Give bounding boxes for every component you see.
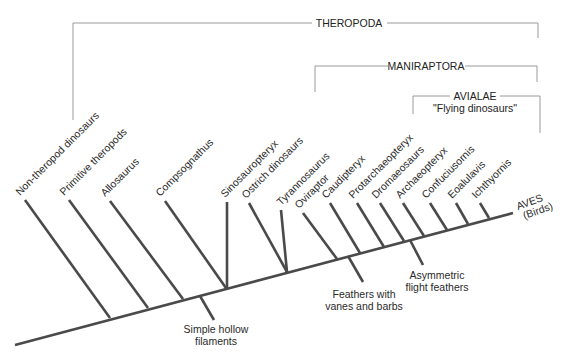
branch-primitive-theropods bbox=[69, 200, 148, 308]
cladogram: THEROPODA MANIRAPTORA AVIALAE "Flying di… bbox=[0, 0, 563, 355]
taxon-labels: Non-theropod dinosaurs Primitive theropo… bbox=[13, 109, 513, 210]
branch-eoalulavis bbox=[456, 203, 468, 224]
branch-oviraptor bbox=[303, 213, 337, 259]
trait-marker-hollow-filaments bbox=[200, 296, 214, 320]
theropoda-label: THEROPODA bbox=[316, 17, 383, 29]
svg-text:flight feathers: flight feathers bbox=[405, 281, 468, 293]
branch-protarchaeopteryx bbox=[357, 203, 384, 247]
taxon-label: Compsognathus bbox=[153, 136, 216, 199]
trait-label-asymmetric-feathers: Asymmetric flight feathers bbox=[405, 269, 468, 293]
branch-ichthyornis bbox=[480, 203, 489, 218]
trait-marker-vaned-feathers bbox=[348, 256, 363, 282]
svg-text:Simple hollow: Simple hollow bbox=[184, 323, 249, 335]
svg-text:Asymmetric: Asymmetric bbox=[410, 269, 465, 281]
svg-text:filaments: filaments bbox=[195, 335, 237, 347]
avialae-subtitle: "Flying dinosaurs" bbox=[433, 102, 517, 114]
svg-text:vanes and barbs: vanes and barbs bbox=[325, 300, 403, 312]
trait-marker-asymmetric-feathers bbox=[410, 240, 423, 265]
avialae-label: AVIALAE bbox=[454, 90, 497, 102]
svg-text:Feathers with: Feathers with bbox=[332, 288, 395, 300]
trait-label-vaned-feathers: Feathers with vanes and barbs bbox=[325, 288, 403, 312]
maniraptora-bracket: MANIRAPTORA bbox=[315, 60, 537, 92]
maniraptora-label: MANIRAPTORA bbox=[388, 60, 465, 72]
taxon-label: Allosaurus bbox=[98, 155, 141, 198]
branch-allosaurus bbox=[110, 201, 183, 299]
branch-confuciusornis bbox=[430, 203, 447, 230]
branch-caudipteryx bbox=[330, 203, 360, 253]
branch-compsognathus bbox=[165, 201, 226, 288]
aves-label: AVES (Birds) bbox=[515, 189, 555, 222]
trait-label-hollow-filaments: Simple hollow filaments bbox=[184, 323, 249, 347]
branch-non-theropod bbox=[25, 200, 110, 318]
branch-dromaeosaurs bbox=[380, 203, 404, 241]
taxon-label: Non-theropod dinosaurs bbox=[13, 109, 101, 197]
branch-archaeopteryx bbox=[403, 203, 424, 236]
avialae-bracket: AVIALAE "Flying dinosaurs" bbox=[413, 90, 540, 133]
